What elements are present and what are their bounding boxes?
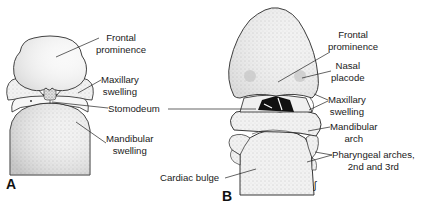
label-stomodeum: Stomodeum — [108, 103, 160, 115]
label-text: placode — [331, 72, 365, 84]
label-text: prominence — [96, 44, 146, 56]
label-text: Pharyngeal arches, — [332, 149, 415, 161]
label-text: swelling — [106, 145, 153, 157]
label-cardiac-bulge: Cardiac bulge — [160, 172, 219, 184]
label-b-nasal-placode: Nasal placode — [331, 60, 365, 83]
artist-signature: ʃ — [314, 180, 316, 192]
label-text: prominence — [328, 41, 378, 53]
label-b-maxillary-swelling: Maxillary swelling — [328, 94, 366, 117]
label-text: Nasal — [331, 60, 365, 72]
label-text: Maxillary — [328, 94, 366, 106]
label-text: swelling — [328, 106, 366, 118]
label-text: Maxillary — [101, 74, 139, 86]
label-text: swelling — [101, 86, 139, 98]
label-a-maxillary-swelling: Maxillary swelling — [101, 74, 139, 97]
label-b-mandibular-arch: Mandibular arch — [330, 121, 377, 144]
label-text: Mandibular — [330, 121, 377, 133]
panel-label-a: A — [6, 176, 16, 192]
embryo-a — [7, 36, 108, 175]
label-a-frontal-prominence: Frontal prominence — [96, 32, 146, 55]
label-text: 2nd and 3rd — [332, 161, 415, 173]
label-b-frontal-prominence: Frontal prominence — [328, 29, 378, 52]
label-text: Frontal — [328, 29, 378, 41]
label-text: Mandibular — [106, 133, 153, 145]
label-text: arch — [330, 133, 377, 145]
label-b-pharyngeal-arches: Pharyngeal arches, 2nd and 3rd — [332, 149, 415, 172]
label-a-mandibular-swelling: Mandibular swelling — [106, 133, 153, 156]
label-text: Frontal — [96, 32, 146, 44]
panel-label-b: B — [222, 188, 232, 204]
embryo-b — [168, 8, 332, 195]
